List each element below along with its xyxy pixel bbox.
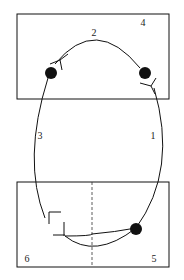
dot-top-left <box>45 67 57 79</box>
dot-bottom-right <box>130 223 142 235</box>
label-box-bottom-left: 6 <box>25 253 30 264</box>
arc-right <box>136 88 163 228</box>
bracket-bottom-left-icon <box>49 212 65 236</box>
label-arc-left: 3 <box>38 130 43 141</box>
dot-top-right <box>139 67 151 79</box>
label-arc-right: 1 <box>151 130 156 141</box>
diagram-canvas: 2 4 3 1 6 5 <box>0 0 184 280</box>
label-box-top: 4 <box>141 17 146 28</box>
fork-top-right-icon <box>140 78 156 94</box>
label-box-bottom-right: 5 <box>152 253 157 264</box>
bottom-box <box>17 182 169 267</box>
arc-bottom-curve <box>65 228 136 246</box>
label-arc-top: 2 <box>92 27 97 38</box>
arc-bottom <box>65 228 136 236</box>
